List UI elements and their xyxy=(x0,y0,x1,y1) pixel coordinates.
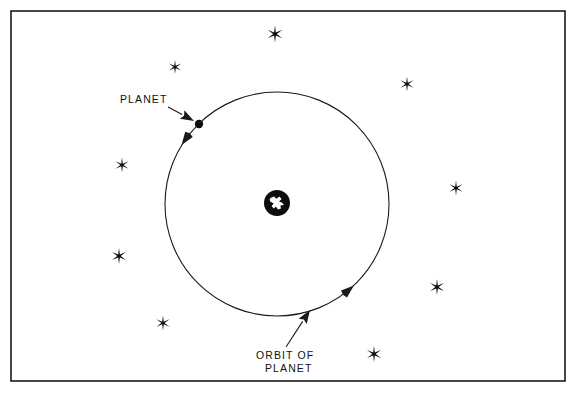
orbit-label-line-2: PLANET xyxy=(265,362,312,374)
planet-leader-arrowhead xyxy=(180,110,194,121)
star-bottom-right xyxy=(367,346,381,362)
callout-leaders xyxy=(168,107,310,347)
orbit-direction-arrows xyxy=(182,132,354,298)
planet-label: PLANET xyxy=(120,93,167,105)
planet-dot xyxy=(195,120,203,128)
diagram-canvas: PLANET ORBIT OF PLANET xyxy=(0,0,579,398)
orbit-arrowhead-top-left xyxy=(182,132,193,145)
orbit-arrowhead-bottom-right xyxy=(341,286,354,298)
star-upper-right xyxy=(401,77,414,92)
orbit-leader-line xyxy=(286,321,303,347)
star-upper-left xyxy=(169,60,181,74)
planet-leader-line xyxy=(168,107,182,115)
star-top-center xyxy=(268,26,283,43)
orbit-diagram-figure: PLANET ORBIT OF PLANET xyxy=(0,0,579,398)
star-right-mid xyxy=(450,181,463,196)
orbit-label-line-1: ORBIT OF xyxy=(256,349,314,361)
diagram-border xyxy=(11,11,565,381)
star-bottom-left xyxy=(157,316,170,331)
star-field xyxy=(112,26,462,363)
star-left-lower xyxy=(112,248,126,264)
star-left-upper xyxy=(116,158,129,173)
star-right-lower xyxy=(430,279,444,295)
central-globe xyxy=(264,190,290,216)
